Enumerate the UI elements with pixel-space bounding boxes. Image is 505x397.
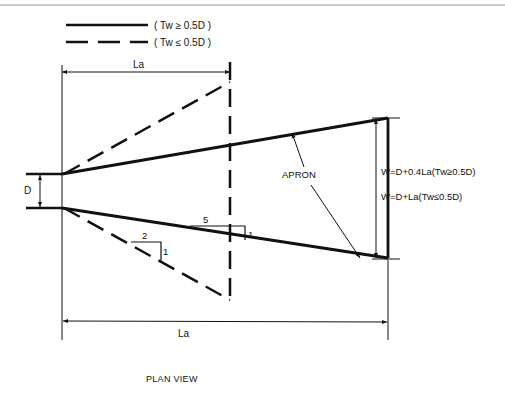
bottom-length-dimension: La xyxy=(63,321,387,339)
pipe-diameter-label: D xyxy=(24,185,31,196)
apron-label: APRON xyxy=(282,169,316,180)
top-length-label: La xyxy=(133,59,145,70)
width-formula-2: W=D+La(Tw≤0.5D) xyxy=(381,191,462,202)
width-formula-1: W=D+0.4La(Tw≥0.5D) xyxy=(381,166,475,177)
legend-dashed-label: ( Tw ≤ 0.5D ) xyxy=(154,37,211,48)
top-length-dimension: La xyxy=(62,59,230,72)
plan-view-diagram: ( Tw ≥ 0.5D ) ( Tw ≤ 0.5D ) La D 5 1 2 1 xyxy=(0,0,505,397)
svg-text:2: 2 xyxy=(142,230,147,241)
svg-text:5: 5 xyxy=(203,214,208,225)
svg-text:1: 1 xyxy=(248,229,253,240)
apron-callout: APRON xyxy=(282,133,360,258)
solid-apron-outline xyxy=(62,118,388,258)
plan-view-title: PLAN VIEW xyxy=(146,374,198,384)
dashed-apron-outline xyxy=(64,62,230,300)
bottom-length-label: La xyxy=(178,328,190,339)
legend: ( Tw ≥ 0.5D ) ( Tw ≤ 0.5D ) xyxy=(66,20,211,48)
legend-solid-label: ( Tw ≥ 0.5D ) xyxy=(154,20,211,31)
svg-text:1: 1 xyxy=(163,246,168,257)
pipe-outlet: D xyxy=(24,174,62,208)
